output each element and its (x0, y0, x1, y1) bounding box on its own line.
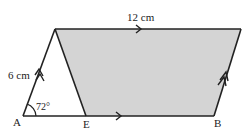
parallel-double-arrow-left-icon (35, 69, 44, 81)
label-left-length: 6 cm (8, 69, 30, 81)
angle-arc-A (27, 104, 36, 116)
label-point-A: A (13, 116, 21, 128)
label-top-length: 12 cm (127, 11, 155, 23)
geometry-diagram: 12 cm 6 cm 72° A E B (0, 0, 244, 133)
label-point-E: E (83, 118, 90, 130)
label-point-B: B (214, 117, 221, 129)
label-angle-A: 72° (36, 101, 50, 112)
shaded-region (55, 29, 241, 116)
